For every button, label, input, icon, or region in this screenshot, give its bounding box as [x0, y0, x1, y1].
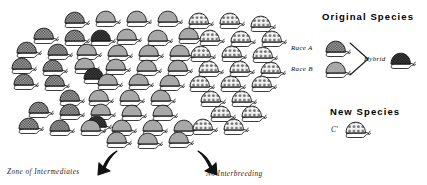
snail-checkered-light-icon — [323, 39, 351, 60]
snail-spotted-icon — [221, 117, 249, 138]
snail-checkered-light-icon — [11, 72, 39, 93]
no-interbreeding-label: No Interbreeding — [206, 170, 263, 178]
snail-spotted-icon — [343, 120, 371, 141]
new-species-heading: New Species — [330, 106, 400, 117]
snail-checkered-dark-icon — [388, 51, 416, 72]
original-species-heading: Original Species — [322, 11, 414, 22]
snail-plain-gray-icon — [78, 118, 106, 139]
snail-checkered-light-icon — [47, 118, 75, 139]
hybrid-label: Hybrid — [364, 55, 386, 63]
figure-canvas: Zone of Intermediates No Interbreeding O… — [0, 0, 427, 185]
snail-plain-gray-icon — [166, 130, 194, 151]
race-a-label: Race A — [291, 44, 313, 52]
snail-plain-gray-icon — [323, 60, 351, 81]
snail-plain-gray-icon — [104, 130, 132, 151]
snail-spotted-icon — [190, 117, 218, 138]
snail-checkered-light-icon — [16, 116, 44, 137]
snail-plain-gray-icon — [135, 131, 163, 152]
race-b-label: Race B — [291, 65, 313, 73]
new-species-symbol: C' — [331, 125, 338, 134]
black-pointer-arrow-icon — [97, 150, 119, 180]
zone-of-intermediates-label: Zone of Intermediates — [7, 168, 80, 176]
